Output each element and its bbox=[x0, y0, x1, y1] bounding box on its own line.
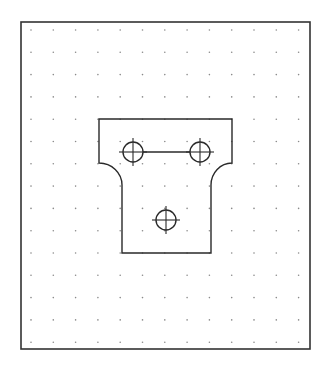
grid-dot bbox=[164, 185, 166, 187]
grid-dot bbox=[119, 252, 121, 254]
grid-dot bbox=[142, 52, 144, 54]
grid-dot bbox=[119, 341, 121, 343]
grid-dot bbox=[298, 297, 300, 299]
grid-dot bbox=[30, 341, 32, 343]
grid-dot bbox=[164, 208, 166, 210]
grid-dot bbox=[298, 163, 300, 165]
grid-dot bbox=[164, 275, 166, 277]
grid-dot bbox=[30, 230, 32, 232]
grid-dot bbox=[231, 74, 233, 76]
grid-dot bbox=[30, 163, 32, 165]
grid-dot bbox=[253, 52, 255, 54]
grid-dot bbox=[231, 208, 233, 210]
grid-dot bbox=[142, 341, 144, 343]
grid-dot bbox=[253, 208, 255, 210]
grid-dot bbox=[298, 275, 300, 277]
grid-dot bbox=[209, 96, 211, 98]
grid-dot bbox=[142, 185, 144, 187]
grid-dot bbox=[53, 252, 55, 254]
grid-dot bbox=[231, 275, 233, 277]
grid-dot bbox=[209, 163, 211, 165]
grid-dot bbox=[253, 163, 255, 165]
grid-dot bbox=[119, 52, 121, 54]
grid-dot bbox=[119, 96, 121, 98]
grid-dot bbox=[186, 141, 188, 143]
grid-dot bbox=[119, 141, 121, 143]
grid-dot bbox=[164, 141, 166, 143]
grid-dot bbox=[164, 29, 166, 31]
grid-dot bbox=[119, 208, 121, 210]
grid-dot bbox=[119, 275, 121, 277]
grid-dot bbox=[209, 341, 211, 343]
grid-dot bbox=[75, 52, 77, 54]
grid-dot bbox=[186, 163, 188, 165]
grid-dot bbox=[75, 230, 77, 232]
grid-dot bbox=[97, 208, 99, 210]
grid-dot bbox=[164, 341, 166, 343]
grid-dot bbox=[298, 29, 300, 31]
grid-dot bbox=[298, 141, 300, 143]
grid-dot bbox=[97, 252, 99, 254]
grid-dot bbox=[186, 74, 188, 76]
grid-dot bbox=[53, 208, 55, 210]
grid-dot bbox=[97, 185, 99, 187]
grid-dot bbox=[164, 319, 166, 321]
grid-dot bbox=[209, 208, 211, 210]
drawing-background bbox=[0, 0, 328, 371]
grid-dot bbox=[186, 275, 188, 277]
grid-dot bbox=[30, 252, 32, 254]
grid-dot bbox=[75, 96, 77, 98]
grid-dot bbox=[30, 29, 32, 31]
grid-dot bbox=[53, 118, 55, 120]
grid-dot bbox=[209, 141, 211, 143]
grid-dot bbox=[231, 319, 233, 321]
grid-dot bbox=[298, 118, 300, 120]
grid-dot bbox=[119, 319, 121, 321]
grid-dot bbox=[298, 185, 300, 187]
grid-dot bbox=[186, 297, 188, 299]
grid-dot bbox=[186, 185, 188, 187]
grid-dot bbox=[119, 230, 121, 232]
grid-dot bbox=[75, 163, 77, 165]
grid-dot bbox=[142, 230, 144, 232]
drawing-canvas[interactable] bbox=[0, 0, 328, 371]
grid-dot bbox=[298, 252, 300, 254]
grid-dot bbox=[209, 29, 211, 31]
grid-dot bbox=[276, 230, 278, 232]
grid-dot bbox=[53, 141, 55, 143]
grid-dot bbox=[53, 275, 55, 277]
grid-dot bbox=[276, 185, 278, 187]
grid-dot bbox=[97, 74, 99, 76]
grid-dot bbox=[75, 185, 77, 187]
grid-dot bbox=[276, 141, 278, 143]
grid-dot bbox=[276, 341, 278, 343]
grid-dot bbox=[298, 96, 300, 98]
grid-dot bbox=[231, 185, 233, 187]
grid-dot bbox=[75, 319, 77, 321]
grid-dot bbox=[30, 185, 32, 187]
grid-dot bbox=[231, 341, 233, 343]
grid-dot bbox=[142, 29, 144, 31]
grid-dot bbox=[97, 319, 99, 321]
grid-dot bbox=[298, 341, 300, 343]
grid-dot bbox=[53, 185, 55, 187]
grid-dot bbox=[298, 319, 300, 321]
grid-dot bbox=[298, 230, 300, 232]
grid-dot bbox=[253, 118, 255, 120]
grid-dot bbox=[164, 96, 166, 98]
grid-dot bbox=[209, 74, 211, 76]
grid-dot bbox=[164, 52, 166, 54]
grid-dot bbox=[231, 230, 233, 232]
grid-dot bbox=[253, 96, 255, 98]
grid-dot bbox=[276, 319, 278, 321]
grid-dot bbox=[253, 74, 255, 76]
grid-dot bbox=[119, 74, 121, 76]
grid-dot bbox=[253, 275, 255, 277]
grid-dot bbox=[53, 319, 55, 321]
grid-dot bbox=[186, 29, 188, 31]
grid-dot bbox=[209, 230, 211, 232]
grid-dot bbox=[209, 275, 211, 277]
grid-dot bbox=[276, 252, 278, 254]
grid-dot bbox=[276, 52, 278, 54]
grid-dot bbox=[186, 319, 188, 321]
